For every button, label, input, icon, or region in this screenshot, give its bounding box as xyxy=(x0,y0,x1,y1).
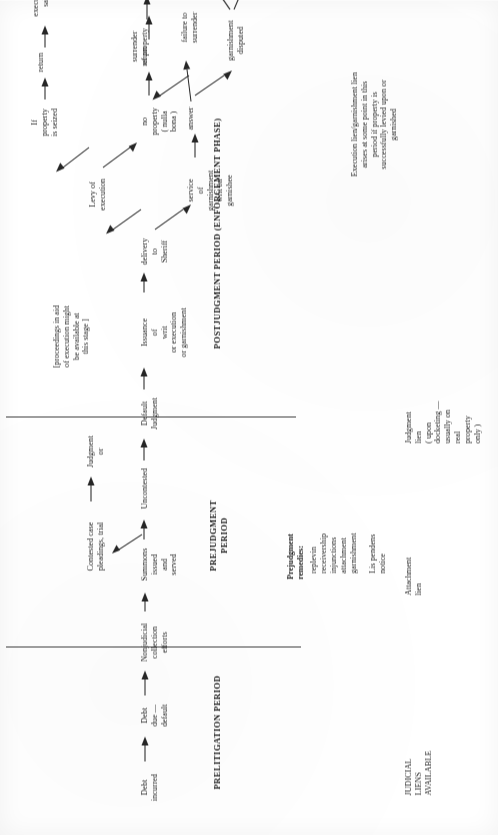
arrow-disputed-to-favor-garnishee xyxy=(230,0,260,11)
node-no-property-nulla-bona: no property ( nulla bona ) xyxy=(140,95,179,147)
node-summons-issued-served: Summons issued and served xyxy=(140,536,179,592)
arrow-surrender-to-sale-in-execution xyxy=(142,0,154,19)
node-if-property-is-seized: If property is seized xyxy=(30,97,59,147)
node-nonjudicial-collection-efforts: Nonjudicial collection efforts xyxy=(140,611,169,673)
node-uncontested: Uncontested xyxy=(140,457,150,519)
node-contested-case: Contested case pleadings, trial xyxy=(86,500,106,592)
node-garnishment-disputed: garnishment disputed xyxy=(226,7,246,73)
period-heading-prejudgment: PREJUDGMENT PERIOD xyxy=(208,455,230,615)
period-heading-postjudgment: POSTJUDGMENT PERIOD (ENFORCEMENT PHASE) xyxy=(212,83,223,383)
arrow-disputed-to-favor-garnishor xyxy=(198,0,234,11)
arrow-contested-to-judgment xyxy=(86,475,98,501)
node-return-after-seizure: return xyxy=(36,45,46,79)
note-proceedings-in-aid: [proceedings in aid of execution might b… xyxy=(52,269,91,403)
node-failure-to-surrender: failure to surrender xyxy=(180,0,200,55)
diagram-canvas: PRELITIGATION PERIOD PREJUDGMENT PERIOD … xyxy=(0,0,498,835)
note-execution-lien-garnishment-lien: Execution lien/garnishment lien arises a… xyxy=(350,9,399,239)
scanned-page: PRELITIGATION PERIOD PREJUDGMENT PERIOD … xyxy=(0,0,498,835)
arrow-summons-to-uncontested xyxy=(139,517,151,539)
note-lis-pendens-notice: Lis pendens notice xyxy=(368,499,388,573)
list-prejudgment-remedy-injunctions: injunctions xyxy=(329,503,339,573)
node-surrender-of-property: surrender of property xyxy=(130,17,150,75)
list-prejudgment-remedy-receivership: receivership xyxy=(319,503,329,573)
arrow-debt-incurred-to-due xyxy=(140,735,152,761)
node-default-judgment: Default Judgment xyxy=(140,387,160,439)
label-judgment-lien: Judgment lien ( upon docketing — usually… xyxy=(404,353,482,443)
node-debt-due-default: Debt due — default xyxy=(140,693,169,737)
list-prejudgment-remedy-replevin: replevin xyxy=(309,503,319,573)
list-prejudgment-remedy-garnishment: garnishment xyxy=(349,503,359,573)
label-judicial-liens-available: JUDICIAL LIENS AVAILABLE xyxy=(404,705,433,795)
node-issuance-of-writ: Issuance of writ or execution or garnish… xyxy=(140,291,189,373)
heading-prejudgment-remedies: Prejudgment remedies: xyxy=(286,505,306,579)
label-attachment-lien: Attachment lien xyxy=(404,521,424,595)
node-answer: answer xyxy=(186,99,196,137)
node-levy-of-execution: Levy of execution xyxy=(88,167,108,221)
arrow-levy-to-property-seized xyxy=(54,139,92,173)
node-debt-incurred: Debt incurred xyxy=(140,761,160,813)
list-prejudgment-remedy-attachment: attachment xyxy=(339,503,349,573)
node-execution-sale: execution sale xyxy=(31,0,51,27)
arrow-nonjudicial-to-summons xyxy=(140,591,152,611)
period-heading-prelitigation: PRELITIGATION PERIOD xyxy=(212,657,223,807)
node-judgment: Judgment or xyxy=(86,425,106,477)
arrow-levy-to-no-property xyxy=(100,139,140,173)
arrow-delivery-to-levy xyxy=(104,201,144,235)
arrow-uncontested-to-default-judgment xyxy=(139,436,151,460)
node-service-of-garnishment-writ: service of garnishment writ on garnishee xyxy=(186,157,235,223)
